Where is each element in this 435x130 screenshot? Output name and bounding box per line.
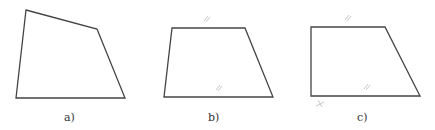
- quadrilateral-a: [16, 10, 125, 98]
- right-angle-mark-icon: [316, 100, 324, 107]
- parallel-mark-icon: [216, 85, 222, 91]
- figure-a: a): [16, 10, 125, 124]
- figure-label-c: c): [357, 111, 367, 124]
- quadrilaterals-diagram: a) b) c): [0, 0, 435, 130]
- parallel-mark-icon: [345, 15, 351, 21]
- figure-c: c): [311, 15, 420, 124]
- right-trapezoid-c: [311, 27, 420, 96]
- figure-label-b: b): [208, 111, 219, 124]
- parallel-mark-icon: [364, 84, 370, 90]
- parallel-mark-icon: [204, 16, 210, 22]
- figure-label-a: a): [64, 111, 75, 124]
- figure-b: b): [164, 16, 273, 124]
